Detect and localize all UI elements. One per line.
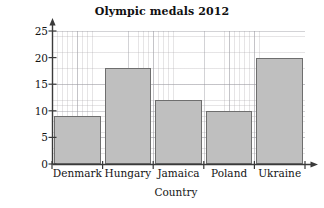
plot-area (52, 31, 305, 164)
y-tick-label-20: 20 (22, 53, 48, 63)
bar-hungary (105, 68, 152, 164)
x-tick-label-hungary: Hungary (103, 167, 154, 179)
y-tick-label-5: 5 (22, 132, 48, 142)
bar-jamaica (155, 100, 202, 164)
x-axis-arrow (311, 161, 319, 167)
bar-poland (206, 111, 253, 164)
y-axis-arrow (49, 18, 55, 26)
y-tick-label-0: 0 (22, 159, 48, 169)
bar-chart: Olympic medals 2012 Number of medals 051… (0, 0, 324, 208)
y-tick-label-25: 25 (22, 26, 48, 36)
x-tick-label-poland: Poland (204, 167, 255, 179)
chart-title: Olympic medals 2012 (0, 5, 324, 18)
x-tick-label-jamaica: Jamaica (153, 167, 204, 179)
x-axis-title: Country (45, 186, 307, 198)
y-tick-label-15: 15 (22, 79, 48, 89)
bar-series (52, 31, 305, 164)
bar-ukraine (256, 58, 303, 164)
bar-denmark (54, 116, 101, 164)
x-tick-label-denmark: Denmark (52, 167, 103, 179)
y-tick-label-10: 10 (22, 106, 48, 116)
x-tick-label-ukraine: Ukraine (254, 167, 305, 179)
